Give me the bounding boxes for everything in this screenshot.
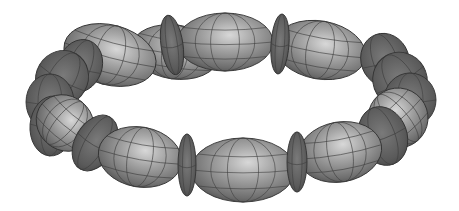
ellipsoid-bead	[191, 138, 295, 202]
ellipsoid-bead	[177, 13, 273, 71]
bead-group	[25, 13, 441, 202]
disc-spacer	[287, 132, 307, 192]
disc-spacer	[178, 134, 196, 196]
bead-ring-render	[0, 0, 459, 211]
